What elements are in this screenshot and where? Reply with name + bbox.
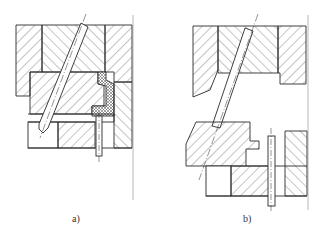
ejector-pin [268, 136, 275, 206]
top-left-plate [193, 26, 218, 97]
diagram-canvas [0, 0, 318, 241]
top-right-block [278, 26, 306, 84]
bottom-left-block [206, 166, 231, 196]
bottom-center-block [231, 166, 272, 196]
figure-a-caption: a) [72, 213, 80, 224]
figure-b-caption: b) [243, 213, 251, 224]
right-body [114, 82, 132, 148]
top-right-block [105, 25, 132, 82]
bottom-center-block [58, 122, 95, 148]
slide-block [186, 122, 259, 166]
figure-a [16, 14, 133, 200]
figure-b [186, 14, 308, 212]
right-body [285, 131, 307, 196]
